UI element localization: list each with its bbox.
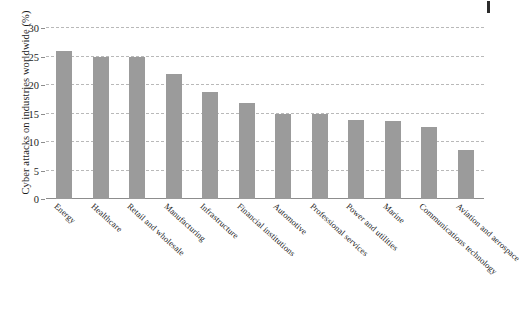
bar (93, 57, 109, 199)
bars-layer (46, 28, 484, 199)
y-tick-label-20: 20 (29, 80, 40, 91)
bar (458, 150, 474, 199)
tick-mark-5 (41, 171, 45, 172)
x-axis-label: Marine (381, 201, 407, 225)
bar (202, 92, 218, 199)
tick-mark-20 (41, 85, 45, 86)
y-tick-label-30: 30 (29, 23, 40, 34)
bar (129, 57, 145, 199)
x-axis-label: Energy (53, 201, 78, 225)
plot-area: 051015202530 (46, 28, 484, 199)
y-tick-label-10: 10 (29, 137, 40, 148)
y-tick-label-25: 25 (29, 51, 40, 62)
tick-mark-30 (41, 28, 45, 29)
bar (421, 127, 437, 199)
bar (275, 114, 291, 199)
tick-mark-0 (41, 199, 45, 200)
y-tick-label-5: 5 (34, 165, 39, 176)
y-tick-label-15: 15 (29, 108, 40, 119)
bar (312, 114, 328, 199)
tick-mark-15 (41, 114, 45, 115)
bar (166, 74, 182, 199)
tick-mark-10 (41, 142, 45, 143)
tick-mark-25 (41, 57, 45, 58)
bar (385, 121, 401, 199)
x-axis-label: Aviation and aerospace (454, 201, 522, 263)
y-tick-label-0: 0 (34, 194, 39, 205)
scan-artifact-mark (487, 1, 490, 13)
bar (56, 51, 72, 199)
bar (239, 103, 255, 199)
bar (348, 120, 364, 199)
x-axis-label: Healthcare (89, 201, 124, 234)
x-axis-labels: EnergyHealthcareRetail and wholesaleManu… (46, 201, 484, 309)
x-axis-label: Automotive (272, 201, 310, 237)
